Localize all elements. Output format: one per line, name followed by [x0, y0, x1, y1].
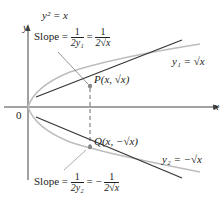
curve-lower-label: y₂ = −√x: [162, 154, 202, 165]
parabola-tangent-diagram: y² = x y x 0 Slope = 12y₁ = 12√x P(x, √x…: [0, 0, 224, 204]
slope-prefix: Slope =: [34, 30, 68, 42]
slope-prefix: Slope =: [34, 175, 68, 187]
point-q: [88, 145, 92, 149]
curve-upper-label: y₁ = √x: [172, 56, 205, 67]
point-p: [88, 84, 92, 88]
tangent-line-upper: [36, 40, 182, 97]
origin-label: 0: [16, 110, 22, 121]
equation-label: y² = x: [42, 10, 68, 21]
leader-line-bottom: [64, 150, 86, 170]
point-q-label: Q(x, −√x): [94, 136, 138, 147]
slope-top-label: Slope = 12y₁ = 12√x: [34, 27, 110, 48]
slope-bottom-label: Slope = 12y₂ = − 12√x: [34, 172, 119, 193]
tangent-line-lower: [36, 117, 182, 178]
y-axis-label: y: [23, 22, 28, 33]
x-axis-label: x: [214, 101, 219, 112]
point-p-label: P(x, √x): [94, 74, 129, 85]
